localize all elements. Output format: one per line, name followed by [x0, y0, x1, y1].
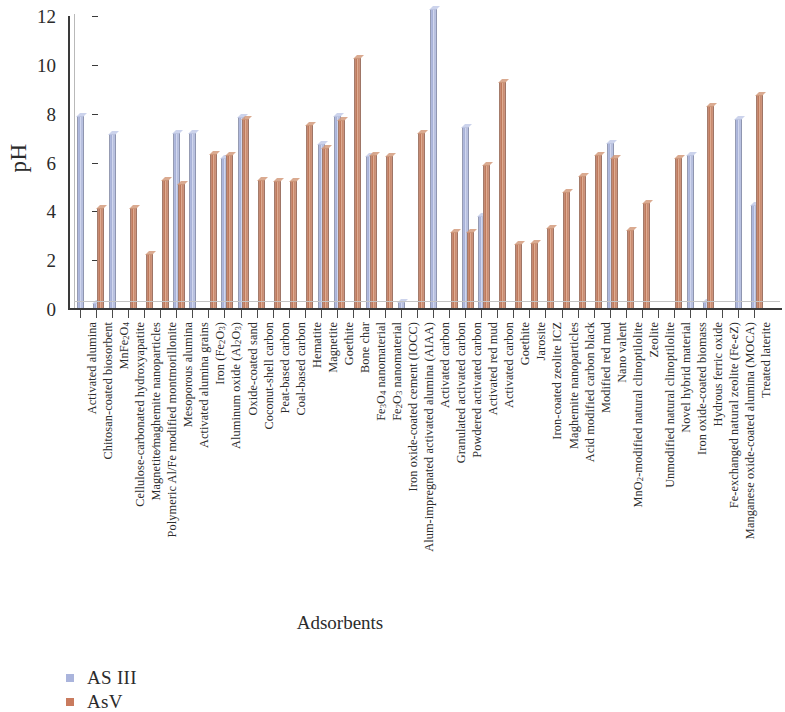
x-tick-mark	[722, 310, 723, 318]
x-axis-label: Zeolite	[648, 322, 661, 358]
bar-asv	[354, 58, 361, 309]
x-axis-label: Manganese oxide-coated alumina (MOCA)	[744, 322, 757, 539]
bar-as3	[430, 9, 437, 309]
x-tick-mark	[545, 310, 546, 318]
bar-face	[274, 181, 281, 309]
bar-top-cap	[225, 152, 236, 156]
legend-label: AS III	[87, 667, 137, 689]
bar-asv	[483, 165, 490, 309]
bar-asv	[756, 95, 763, 309]
x-tick-mark	[385, 310, 386, 318]
bar-top-cap	[674, 155, 685, 159]
legend-item[interactable]: AsV	[66, 690, 137, 712]
bar-face	[189, 133, 196, 309]
x-axis-label: Iron oxide-coated cement (IOCC)	[407, 322, 420, 491]
x-axis-label: Activated carbon	[439, 322, 452, 408]
x-tick-mark	[610, 310, 611, 318]
x-axis-label: Iron oxide-coated biomass	[696, 322, 709, 455]
bar-face	[306, 125, 313, 309]
x-tick-mark	[433, 310, 434, 318]
bar-face	[595, 155, 602, 309]
x-axis-label: Polymeric Al/Fe modified montmorillonite	[166, 322, 179, 537]
bar-asv	[707, 106, 714, 309]
x-axis-label: Iron (Fe2O3)	[214, 322, 227, 385]
bar-asv	[547, 228, 554, 309]
x-tick-mark	[176, 310, 177, 318]
x-tick-mark	[353, 310, 354, 318]
bar-face	[109, 134, 116, 309]
y-tick-label: 8	[47, 104, 57, 123]
legend-item[interactable]: AS III	[66, 666, 137, 690]
x-axis-label: Mesoporous alumina	[182, 322, 195, 427]
bar-asv	[290, 181, 297, 309]
x-tick-mark	[289, 310, 290, 318]
bar-asv	[579, 176, 586, 309]
x-axis-label: Alum-impregnated activated alumina (AIAA…	[423, 322, 436, 552]
bar-top-cap	[482, 162, 493, 166]
bar-asv	[499, 82, 506, 309]
x-tick-mark	[449, 310, 450, 318]
x-tick-mark	[562, 310, 563, 318]
x-axis-label: Magnetite	[327, 322, 340, 373]
x-tick-mark	[257, 310, 258, 318]
x-axis-label: Goethite	[519, 322, 532, 365]
bar-face	[451, 232, 458, 309]
legend-label: AsV	[87, 691, 123, 712]
x-tick-mark	[160, 310, 161, 318]
bar-face	[386, 156, 393, 309]
x-tick-mark	[690, 310, 691, 318]
bar-face	[756, 95, 763, 309]
x-axis-label: Treated laterite	[760, 322, 773, 398]
bar-top-cap	[108, 131, 119, 135]
bar-asv	[643, 203, 650, 309]
x-axis-label: Aluminum oxide (Al2O3)	[230, 322, 243, 449]
x-tick-mark	[144, 310, 145, 318]
y-tick-label: 6	[47, 153, 57, 172]
x-tick-mark	[96, 310, 97, 318]
bar-face	[258, 180, 265, 309]
bar-asv	[210, 154, 217, 309]
bar-face	[687, 155, 694, 309]
bar-top-cap	[161, 177, 172, 181]
bar-face	[531, 243, 538, 309]
bar-face	[430, 9, 437, 309]
x-tick-mark	[80, 310, 81, 318]
y-axis-title: pH	[6, 123, 32, 193]
x-axis-label: Bone char	[359, 322, 372, 373]
bar-asv	[531, 243, 538, 309]
x-tick-mark	[112, 310, 113, 318]
x-axis-label: Magnetite⁄maghemite nanoparticles	[150, 322, 163, 500]
chart-legend: AS IIIAsV	[66, 666, 137, 712]
bar-face	[290, 181, 297, 309]
x-axis-label: Chitosan-coated biosorbent	[102, 322, 115, 460]
bar-top-cap	[546, 225, 557, 229]
bar-face	[499, 82, 506, 309]
bar-asv	[274, 181, 281, 309]
bar-top-cap	[321, 145, 332, 149]
bar-asv	[130, 208, 137, 309]
x-axis-label: Goethite	[343, 322, 356, 365]
bar-as3	[735, 119, 742, 309]
bar-top-cap	[129, 205, 140, 209]
bar-as3	[687, 155, 694, 309]
bar-asv	[451, 232, 458, 309]
bar-face	[322, 148, 329, 309]
bar-top-cap	[606, 140, 617, 144]
bar-face	[77, 116, 84, 309]
x-tick-mark	[208, 310, 209, 318]
bar-top-cap	[177, 181, 188, 185]
bar-face	[97, 208, 104, 309]
y-tick-label: 10	[37, 55, 56, 74]
x-axis-label: Coal-based carbon	[295, 322, 308, 416]
x-axis-label: Activated alumina	[86, 322, 99, 414]
x-tick-mark	[642, 310, 643, 318]
bar-asv	[675, 158, 682, 309]
x-axis-label: Hematite	[311, 322, 324, 368]
bar-asv	[162, 180, 169, 309]
legend-color-swatch	[66, 674, 74, 682]
bar-top-cap	[305, 122, 316, 126]
bar-top-cap	[578, 173, 589, 177]
bar-asv	[515, 244, 522, 309]
bar-asv	[242, 119, 249, 309]
x-tick-mark	[481, 310, 482, 318]
